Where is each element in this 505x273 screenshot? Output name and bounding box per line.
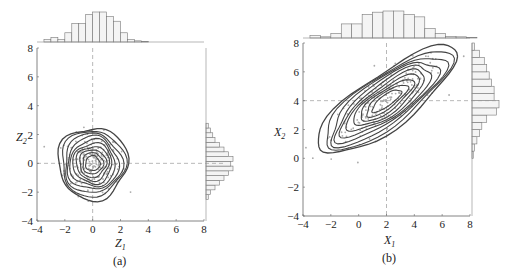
panel-b: −4−202468−4−202468 X2 X1 (b) <box>273 11 499 265</box>
data-point <box>96 163 98 165</box>
data-point <box>312 157 314 159</box>
data-point <box>130 191 132 193</box>
data-point <box>463 55 465 57</box>
data-point <box>60 147 62 149</box>
data-point <box>344 131 346 133</box>
hist-bar <box>58 40 65 42</box>
data-point <box>391 93 393 95</box>
hist-bar <box>206 157 233 162</box>
data-point <box>375 113 377 115</box>
y-tick-label: −4 <box>21 215 33 227</box>
x-tick-label: 2 <box>384 218 390 230</box>
data-point <box>365 109 367 111</box>
hist-bar <box>362 15 372 38</box>
x-tick-label: 6 <box>173 223 179 235</box>
panel-b-joint-plot <box>303 43 497 216</box>
data-point <box>415 90 417 92</box>
data-point <box>437 72 439 74</box>
y-tick-label: 8 <box>28 42 34 54</box>
hist-bar <box>206 152 229 157</box>
panel-a-caption: (a) <box>113 254 126 268</box>
hist-bar <box>472 72 489 79</box>
data-point <box>380 84 382 86</box>
panel-a: −4−202468−4−202468 Z2 Z1 (a) <box>16 12 233 268</box>
x-tick-label: 0 <box>90 223 96 235</box>
x-tick-label: −2 <box>325 218 337 230</box>
hist-bar <box>472 144 474 151</box>
data-point <box>43 146 45 148</box>
data-point <box>102 192 104 194</box>
data-point <box>394 63 396 65</box>
x-tick-label: 6 <box>439 218 445 230</box>
data-point <box>91 160 93 162</box>
data-point <box>117 168 119 170</box>
panel-b-caption: (b) <box>382 251 396 265</box>
data-point <box>95 160 97 162</box>
data-point <box>91 179 93 181</box>
y-tick-label: −4 <box>287 210 299 222</box>
y-tick-label: 4 <box>28 100 34 112</box>
hist-bar <box>310 36 320 38</box>
data-point <box>367 118 369 120</box>
hist-bar <box>93 12 100 42</box>
hist-bar <box>472 57 484 64</box>
hist-bar <box>472 122 482 129</box>
data-point <box>98 163 100 165</box>
data-point <box>342 135 344 137</box>
hist-bar <box>472 43 474 50</box>
data-point <box>381 107 383 109</box>
hist-bar <box>206 123 208 128</box>
data-point <box>412 67 414 69</box>
data-point <box>415 71 417 73</box>
panel-a-xlabel: Z1 <box>115 236 126 252</box>
data-point <box>407 81 409 83</box>
figure: −4−202468−4−202468 Z2 Z1 (a) −4−202468−4… <box>0 0 505 273</box>
panel-b-axes: −4−202468−4−202468 <box>287 37 473 230</box>
hist-bar <box>393 11 403 38</box>
data-point <box>70 183 72 185</box>
hist-bar <box>114 21 121 42</box>
data-point <box>116 163 118 165</box>
data-point <box>370 106 372 108</box>
x-tick-label: 4 <box>412 218 418 230</box>
hist-bar <box>206 171 229 176</box>
data-point <box>412 55 414 57</box>
panel-a-axes: −4−202468−4−202468 <box>21 42 207 235</box>
data-point <box>88 165 90 167</box>
hist-bar <box>472 86 494 93</box>
data-point <box>389 96 391 98</box>
data-point <box>305 147 307 149</box>
data-point <box>107 177 109 179</box>
hist-bar <box>206 147 224 152</box>
panel-a-top-histogram <box>44 12 148 42</box>
hist-bar <box>206 161 231 166</box>
data-point <box>412 70 414 72</box>
y-tick-label: 6 <box>28 71 34 83</box>
x-tick-label: 8 <box>201 223 207 235</box>
data-point <box>373 65 375 67</box>
data-point <box>352 127 354 129</box>
hist-bar <box>51 37 58 42</box>
data-point <box>387 97 389 99</box>
hist-bar <box>414 17 424 38</box>
data-point <box>89 163 91 165</box>
data-point <box>410 81 412 83</box>
data-point <box>347 104 349 106</box>
hist-bar <box>472 93 494 100</box>
panel-a-right-histogram <box>206 123 233 199</box>
data-point <box>81 183 83 185</box>
hist-bar <box>472 108 497 115</box>
data-point <box>102 178 104 180</box>
data-point <box>395 93 397 95</box>
hist-bar <box>472 115 487 122</box>
data-point <box>357 162 359 164</box>
hist-bar <box>373 12 383 38</box>
data-point <box>387 102 389 104</box>
hist-bar <box>206 142 220 147</box>
data-point <box>412 78 414 80</box>
y-tick-label: 2 <box>294 124 300 136</box>
data-point <box>87 189 89 191</box>
data-point <box>431 70 433 72</box>
hist-bar <box>44 40 51 42</box>
y-tick-label: −2 <box>287 181 299 193</box>
